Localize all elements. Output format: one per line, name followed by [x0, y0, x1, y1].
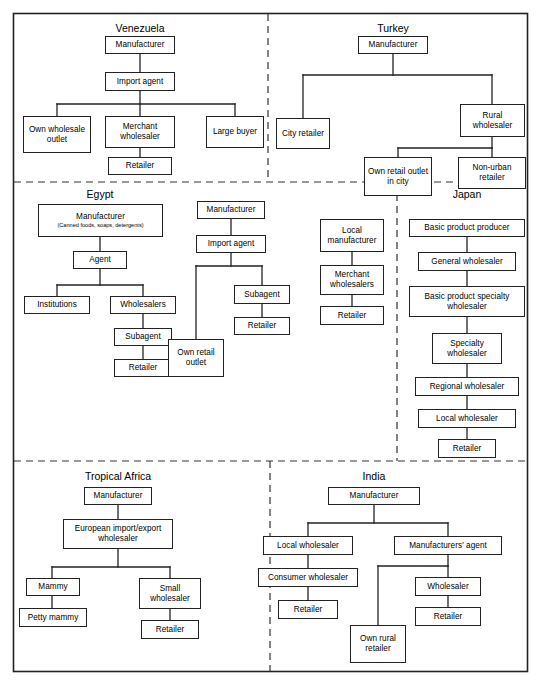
node-label: Retailer: [126, 161, 155, 171]
turkey-node-own-retail-outlet-in-city: Own retail outlet in city: [364, 157, 432, 196]
node-label: Large buyer: [213, 127, 257, 137]
japan-node-general-wholesaler: General wholesaler: [418, 252, 516, 271]
egypt-node-retailer: Retailer: [114, 359, 172, 377]
turkey-node-rural-wholesaler: Rural wholesaler: [460, 104, 525, 137]
node-label: Local manufacturer: [324, 226, 380, 246]
panel-title-tropical-africa: Tropical Africa: [68, 470, 168, 482]
egypt-node-merchant-wholesalers: Merchant wholesalers: [320, 265, 384, 295]
node-label: Retailer: [453, 444, 482, 454]
egypt-node-own-retail-outlet: Own retail outlet: [168, 339, 224, 377]
turkey-node-non-urban-retailer: Non-urban retailer: [458, 157, 526, 189]
node-label: Own wholesale outlet: [27, 125, 87, 145]
egypt-node-local-manufacturer: Local manufacturer: [320, 219, 384, 252]
node-label: Manufacturers' agent: [409, 541, 487, 551]
egypt-node-institutions: Institutions: [24, 296, 90, 314]
node-label: Manufacturer: [116, 40, 165, 50]
node-label: Import agent: [117, 77, 164, 87]
egypt-node-import-agent: Import agent: [196, 235, 266, 253]
turkey-node-city-retailer: City retailer: [276, 118, 330, 149]
venezuela-node-retailer: Retailer: [108, 157, 172, 175]
node-label: Consumer wholesaler: [268, 573, 348, 583]
node-label: Institutions: [37, 300, 77, 310]
node-label: Retailer: [156, 625, 185, 635]
node-label: Own rural retailer: [354, 634, 402, 654]
node-label: Retailer: [338, 311, 367, 321]
diagram-canvas: Venezuela Manufacturer Import agent Own …: [0, 0, 540, 689]
node-label: Retailer: [248, 321, 277, 331]
node-label: Basic product producer: [424, 223, 509, 233]
panel-title-egypt: Egypt: [60, 188, 140, 200]
panel-title-india: India: [344, 470, 404, 482]
india-node-wholesaler: Wholesaler: [415, 577, 481, 596]
india-node-own-rural-retailer: Own rural retailer: [350, 625, 406, 663]
india-node-retailer-left: Retailer: [278, 600, 338, 619]
node-label: Subagent: [125, 332, 160, 342]
node-label: Local wholesaler: [436, 414, 498, 424]
turkey-node-manufacturer: Manufacturer: [358, 36, 428, 54]
node-label: Agent: [89, 255, 111, 265]
node-label: Own retail outlet in city: [368, 167, 428, 187]
node-sublabel: (Canned foods, soaps, detergents): [57, 222, 143, 229]
node-label: Wholesaler: [427, 582, 468, 592]
node-label: Manufacturer: [369, 40, 418, 50]
egypt-node-retailer-3: Retailer: [320, 306, 384, 325]
node-label: Merchant wholesaler: [109, 122, 171, 142]
node-label: Retailer: [129, 363, 158, 373]
venezuela-node-merchant-wholesaler: Merchant wholesaler: [105, 116, 175, 148]
india-node-consumer-wholesaler: Consumer wholesaler: [258, 568, 358, 587]
africa-node-manufacturer: Manufacturer: [84, 487, 152, 505]
node-label: Import agent: [208, 239, 255, 249]
node-label: City retailer: [282, 129, 324, 139]
africa-node-european-import-export-wholesaler: European import/export wholesaler: [63, 519, 173, 549]
node-label: Local wholesaler: [277, 541, 339, 551]
india-node-retailer-right: Retailer: [415, 607, 481, 626]
node-label: Small wholesaler: [143, 584, 197, 604]
egypt-node-manufacturer-2: Manufacturer: [197, 201, 265, 219]
node-label: Rural wholesaler: [464, 111, 521, 131]
panel-title-venezuela: Venezuela: [95, 22, 185, 34]
egypt-node-subagent: Subagent: [114, 328, 172, 346]
panel-title-japan: Japan: [427, 188, 507, 200]
india-node-manufacturers-agent: Manufacturers' agent: [394, 536, 502, 555]
node-label: Subagent: [244, 290, 279, 300]
node-label: Specialty wholesaler: [436, 339, 498, 359]
egypt-node-agent: Agent: [73, 251, 127, 269]
node-label: Manufacturer: [94, 491, 143, 501]
egypt-node-manufacturer: Manufacturer (Canned foods, soaps, deter…: [38, 204, 163, 237]
egypt-node-subagent-2: Subagent: [234, 285, 290, 304]
node-label: Own retail outlet: [172, 348, 220, 368]
japan-node-regional-wholesaler: Regional wholesaler: [415, 377, 519, 396]
japan-node-basic-product-producer: Basic product producer: [409, 219, 525, 237]
venezuela-node-own-wholesale-outlet: Own wholesale outlet: [23, 116, 91, 153]
africa-node-retailer: Retailer: [141, 620, 199, 639]
node-label: General wholesaler: [431, 257, 502, 267]
egypt-node-retailer-2: Retailer: [234, 317, 290, 335]
india-node-local-wholesaler: Local wholesaler: [263, 536, 353, 555]
node-label: Retailer: [434, 612, 463, 622]
node-label: Regional wholesaler: [430, 382, 505, 392]
japan-node-local-wholesaler: Local wholesaler: [418, 409, 516, 428]
panel-title-turkey: Turkey: [348, 22, 438, 34]
japan-node-retailer: Retailer: [438, 439, 496, 458]
node-label: Wholesalers: [120, 300, 166, 310]
egypt-node-wholesalers: Wholesalers: [110, 296, 176, 314]
node-label: Retailer: [294, 605, 323, 615]
venezuela-node-large-buyer: Large buyer: [206, 116, 264, 148]
node-label: Basic product specialty wholesaler: [413, 292, 521, 312]
japan-node-basic-product-specialty-wholesaler: Basic product specialty wholesaler: [409, 286, 525, 317]
node-label: Merchant wholesalers: [324, 270, 380, 290]
node-label: European import/export wholesaler: [67, 524, 169, 544]
node-label: Manufacturer: [207, 205, 256, 215]
india-node-manufacturer: Manufacturer: [328, 487, 420, 505]
node-label: Manufacturer: [350, 491, 399, 501]
africa-node-mammy: Mammy: [26, 578, 80, 596]
node-label: Manufacturer: [76, 212, 125, 222]
node-label: Petty mammy: [28, 613, 79, 623]
africa-node-petty-mammy: Petty mammy: [19, 608, 87, 627]
node-label: Mammy: [38, 582, 67, 592]
venezuela-node-import-agent: Import agent: [105, 72, 175, 91]
node-label: Non-urban retailer: [462, 163, 522, 183]
africa-node-small-wholesaler: Small wholesaler: [139, 578, 201, 609]
japan-node-specialty-wholesaler: Specialty wholesaler: [432, 333, 502, 364]
venezuela-node-manufacturer: Manufacturer: [105, 36, 175, 54]
